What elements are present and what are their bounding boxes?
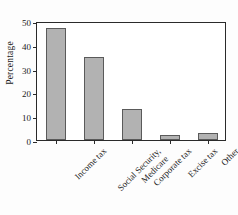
bar [84,57,104,140]
y-axis-tick-label: 20 [22,89,31,99]
y-axis-tick [33,142,37,143]
bar [198,133,218,140]
y-axis-tick-label: 30 [22,66,31,76]
y-axis-tick-label: 0 [27,137,32,147]
bar [122,109,142,140]
plot-area: 01020304050 [36,22,226,141]
x-axis-label-line: Income tax [73,146,109,182]
y-axis-tick [33,47,37,48]
bar [160,135,180,140]
x-axis-label-line: Other [219,146,238,168]
y-axis-tick [33,94,37,95]
x-axis-tick [56,140,57,144]
y-axis-tick-label: 40 [22,42,31,52]
bar-chart-figure: Percentage 01020304050 Income taxSocial … [0,0,238,215]
y-axis-tick-label: 50 [22,18,31,28]
x-axis-label: Income tax [73,146,109,182]
bar [46,28,66,140]
y-axis-tick [33,118,37,119]
y-axis-tick [33,71,37,72]
x-axis-tick [170,140,171,144]
y-axis-tick [33,23,37,24]
x-axis-tick [94,140,95,144]
y-axis-title: Percentage [5,28,15,98]
y-axis-tick-label: 10 [22,113,31,123]
x-axis-tick [132,140,133,144]
x-axis-tick [208,140,209,144]
x-axis-label: Other [219,146,238,168]
